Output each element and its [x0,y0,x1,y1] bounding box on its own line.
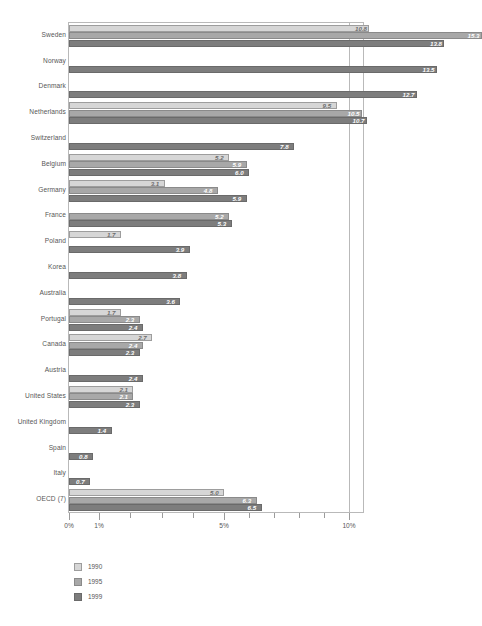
bar-value-label: 2.7 [138,334,147,341]
category-label: Norway [0,57,66,64]
bar-value-label: 1.4 [98,427,107,434]
bar-1999 [69,91,417,98]
bar-value-label: 0.8 [79,453,88,460]
bar-1999 [69,272,187,279]
chart-row-united-states: United States2.12.12.3 [0,383,434,409]
bar-value-label: 1.7 [107,231,116,238]
bar-value-label: 2.3 [126,401,135,408]
bar-1995 [69,497,257,504]
chart-row-portugal: Portugal1.72.32.4 [0,306,434,332]
category-label: United Kingdom [0,418,66,425]
bar-1999 [69,40,444,47]
bar-value-label: 9.5 [323,102,332,109]
chart-row-poland: Poland1.73.9 [0,228,434,254]
bar-value-label: 5.0 [210,489,219,496]
bar-1999 [69,169,249,176]
x-axis-minor-tick [249,513,250,518]
legend-swatch-icon [74,578,82,586]
category-label: Denmark [0,82,66,89]
chart-row-denmark: Denmark12.7 [0,74,434,100]
category-label: Austria [0,366,66,373]
chart-row-australia: Australia3.6 [0,280,434,306]
x-axis-minor-tick [193,513,194,518]
x-axis-major-tick [349,513,350,520]
x-axis-tick-label: 10% [342,522,355,529]
legend-swatch-icon [74,563,82,571]
x-axis-major-tick [99,513,100,520]
bar-value-label: 2.4 [129,342,138,349]
bar-value-label: 5.2 [215,213,224,220]
bar-value-label: 2.1 [119,386,128,393]
category-label: Poland [0,237,66,244]
chart-row-sweden: Sweden10.815.313.8 [0,22,434,48]
bar-value-label: 3.1 [151,180,160,187]
bar-1999 [69,246,190,253]
category-label: OECD (7) [0,495,66,502]
chart-row-belgium: Belgium5.25.96.0 [0,151,434,177]
legend-label: 1990 [88,561,102,572]
bar-value-label: 2.1 [119,393,128,400]
bar-1990 [69,102,337,109]
bar-value-label: 10.7 [353,117,365,124]
bar-value-label: 5.9 [233,195,242,202]
bar-value-label: 3.8 [173,272,182,279]
bar-1999 [69,117,367,124]
chart-row-norway: Norway13.5 [0,48,434,74]
bar-value-label: 5.3 [218,220,227,227]
bar-1999 [69,220,232,227]
bar-value-label: 7.8 [280,143,289,150]
category-label: Portugal [0,315,66,322]
category-label: Spain [0,444,66,451]
category-label: United States [0,392,66,399]
x-axis-minor-tick [274,513,275,518]
chart-row-switzerland: Switzerland7.8 [0,125,434,151]
bar-value-label: 2.3 [126,316,135,323]
bar-value-label: 4.8 [204,187,213,194]
bar-value-label: 2.4 [129,324,138,331]
chart-row-netherlands: Netherlands9.510.510.7 [0,99,434,125]
bar-1995 [69,161,247,168]
bar-1995 [69,213,229,220]
category-label: Belgium [0,160,66,167]
bar-value-label: 3.9 [176,246,185,253]
bar-value-label: 6.0 [235,169,244,176]
bar-value-label: 1.7 [107,309,116,316]
bar-value-label: 0.7 [76,478,85,485]
chart-row-oecd-7: OECD (7)5.06.36.5 [0,486,434,512]
x-axis-major-tick [224,513,225,520]
bar-value-label: 2.3 [126,349,135,356]
bar-value-label: 6.3 [243,497,252,504]
x-axis-minor-tick [162,513,163,518]
bar-1999 [69,195,247,202]
category-label: Italy [0,469,66,476]
chart-rows: Sweden10.815.313.8Norway13.5Denmark12.7N… [0,22,434,513]
x-axis-minor-tick [130,513,131,518]
x-axis-tick-label: 5% [219,522,229,529]
bar-1995 [69,110,362,117]
bar-1999 [69,143,294,150]
legend-label: 1995 [88,576,102,587]
bar-value-label: 5.9 [233,161,242,168]
category-label: Canada [0,340,66,347]
category-label: Korea [0,263,66,270]
chart-row-canada: Canada2.72.42.3 [0,331,434,357]
legend-swatch-icon [74,593,82,601]
bar-value-label: 13.5 [423,66,435,73]
bar-value-label: 12.7 [403,91,415,98]
x-axis-tick-label: 0% [64,522,74,529]
bar-1990 [69,489,224,496]
bar-1990 [69,25,369,32]
chart-row-austria: Austria2.4 [0,357,434,383]
bar-value-label: 3.6 [166,298,175,305]
category-label: Australia [0,289,66,296]
x-axis: 0%1%5%10% [68,513,364,539]
category-label: France [0,211,66,218]
bar-value-label: 5.2 [215,154,224,161]
chart-row-germany: Germany3.14.85.9 [0,177,434,203]
chart-row-france: France5.25.3 [0,203,434,229]
x-axis-minor-tick [324,513,325,518]
bar-value-label: 2.4 [129,375,138,382]
bar-value-label: 10.5 [348,110,360,117]
bar-1990 [69,154,229,161]
